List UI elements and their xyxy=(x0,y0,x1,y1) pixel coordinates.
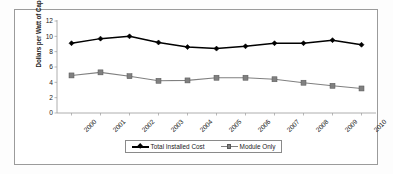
legend-label: Total Installed Cost xyxy=(151,143,205,151)
legend-entry[interactable]: Total Installed Cost xyxy=(132,143,205,151)
square-marker-icon xyxy=(221,143,238,150)
chart-figure: Dollars per Watt of Capacity 024681012 2… xyxy=(0,0,393,174)
diamond-marker-icon xyxy=(132,143,149,150)
series-total-installed-cost xyxy=(69,34,364,51)
chart-outer-frame: Dollars per Watt of Capacity 024681012 2… xyxy=(14,9,378,165)
chart-legend: Total Installed CostModule Only xyxy=(125,140,282,153)
series-module-only xyxy=(69,70,364,91)
legend-label: Module Only xyxy=(240,143,276,151)
legend-entry[interactable]: Module Only xyxy=(221,143,276,151)
